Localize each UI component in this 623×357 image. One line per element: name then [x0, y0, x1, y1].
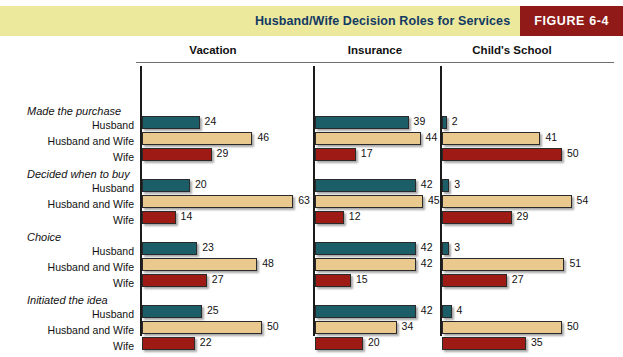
bar-value-label: 24 — [205, 115, 217, 127]
role-label: Husband and Wife — [0, 198, 134, 210]
column-header-vacation: Vacation — [189, 44, 236, 56]
bar-value-label: 50 — [567, 147, 579, 159]
bar-value-label: 42 — [421, 257, 433, 269]
bar-value-label: 50 — [567, 320, 579, 332]
bar-value-label: 17 — [361, 147, 373, 159]
bar-both — [315, 321, 397, 334]
bar-both — [442, 258, 564, 271]
bar-husband — [442, 305, 452, 318]
bar-husband — [442, 179, 449, 192]
bar-value-label: 39 — [414, 115, 426, 127]
role-label: Husband — [0, 245, 134, 257]
bar-value-label: 22 — [200, 336, 212, 348]
bar-value-label: 25 — [207, 304, 219, 316]
bar-both — [442, 132, 540, 145]
bar-value-label: 48 — [262, 257, 274, 269]
role-label: Wife — [0, 151, 134, 163]
role-label: Husband and Wife — [0, 261, 134, 273]
role-label: Wife — [0, 214, 134, 226]
bar-value-label: 27 — [512, 273, 524, 285]
bar-value-label: 42 — [421, 241, 433, 253]
bar-value-label: 35 — [531, 336, 543, 348]
bar-husband — [315, 179, 416, 192]
bar-wife — [315, 337, 363, 350]
bar-value-label: 45 — [428, 194, 440, 206]
bar-value-label: 2 — [452, 115, 458, 127]
bar-value-label: 29 — [217, 147, 229, 159]
bar-wife — [142, 211, 176, 224]
bar-both — [442, 195, 572, 208]
chart-area: VacationInsuranceChild's School Made the… — [0, 40, 623, 336]
bar-value-label: 15 — [356, 273, 368, 285]
group-title: Initiated the idea — [27, 294, 108, 306]
role-label: Wife — [0, 277, 134, 289]
bar-value-label: 4 — [457, 304, 463, 316]
bar-wife — [442, 148, 562, 161]
bar-husband — [315, 305, 416, 318]
bar-both — [315, 132, 421, 145]
bar-wife — [142, 148, 212, 161]
bar-value-label: 14 — [181, 210, 193, 222]
bar-husband — [142, 179, 190, 192]
bar-group: Made the purchaseHusbandHusband and Wife… — [0, 106, 623, 168]
bar-husband — [142, 305, 202, 318]
bar-value-label: 46 — [257, 131, 269, 143]
role-label: Husband — [0, 182, 134, 194]
header-divider-rule — [136, 62, 614, 63]
bar-value-label: 29 — [517, 210, 529, 222]
bar-husband — [315, 242, 416, 255]
bar-both — [315, 258, 416, 271]
bar-both — [442, 321, 562, 334]
bar-both — [142, 258, 257, 271]
bar-group: ChoiceHusbandHusband and WifeWife2348274… — [0, 232, 623, 294]
bar-value-label: 27 — [212, 273, 224, 285]
bar-value-label: 12 — [349, 210, 361, 222]
bar-value-label: 23 — [202, 241, 214, 253]
bar-husband — [315, 116, 409, 129]
bar-husband — [142, 116, 200, 129]
bar-wife — [315, 274, 351, 287]
axis-spine-insurance — [313, 66, 315, 336]
figure-banner: Husband/Wife Decision Roles for Services… — [0, 6, 623, 36]
bar-value-label: 42 — [421, 178, 433, 190]
bar-value-label: 41 — [545, 131, 557, 143]
bar-value-label: 63 — [298, 194, 310, 206]
group-title: Decided when to buy — [27, 168, 130, 180]
bar-husband — [442, 116, 447, 129]
role-label: Husband and Wife — [0, 135, 134, 147]
bar-value-label: 3 — [454, 241, 460, 253]
bar-wife — [315, 148, 356, 161]
bar-wife — [442, 211, 512, 224]
bar-value-label: 20 — [368, 336, 380, 348]
bar-husband — [442, 242, 449, 255]
bar-wife — [442, 274, 507, 287]
role-label: Husband — [0, 119, 134, 131]
bar-value-label: 20 — [195, 178, 207, 190]
bar-group: Initiated the ideaHusbandHusband and Wif… — [0, 295, 623, 357]
bar-both — [142, 321, 262, 334]
role-label: Wife — [0, 340, 134, 352]
bar-wife — [142, 337, 195, 350]
bar-both — [142, 195, 293, 208]
bar-husband — [142, 242, 197, 255]
column-header-insurance: Insurance — [348, 44, 402, 56]
column-header-child-s-school: Child's School — [472, 44, 551, 56]
bar-value-label: 54 — [577, 194, 589, 206]
axis-spine-vacation — [140, 66, 142, 336]
bar-value-label: 44 — [426, 131, 438, 143]
role-label: Husband — [0, 308, 134, 320]
group-title: Choice — [27, 231, 61, 243]
bar-both — [142, 132, 252, 145]
group-title: Made the purchase — [27, 105, 121, 117]
role-label: Husband and Wife — [0, 324, 134, 336]
bar-value-label: 34 — [402, 320, 414, 332]
bar-value-label: 50 — [267, 320, 279, 332]
figure-number-badge: FIGURE 6-4 — [520, 6, 623, 36]
bar-wife — [442, 337, 526, 350]
bar-value-label: 51 — [569, 257, 581, 269]
bar-group: Decided when to buyHusbandHusband and Wi… — [0, 169, 623, 231]
bar-both — [315, 195, 423, 208]
bar-wife — [142, 274, 207, 287]
bar-value-label: 3 — [454, 178, 460, 190]
bar-wife — [315, 211, 344, 224]
